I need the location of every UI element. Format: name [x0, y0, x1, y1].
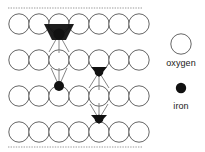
crystal-lattice-figure: oxygen iron	[0, 0, 205, 152]
legend-iron-marker	[176, 83, 186, 93]
legend-iron-label: iron	[150, 101, 205, 111]
legend-oxygen-label: oxygen	[150, 58, 205, 68]
legend	[0, 0, 205, 152]
legend-oxygen-marker	[171, 34, 191, 54]
